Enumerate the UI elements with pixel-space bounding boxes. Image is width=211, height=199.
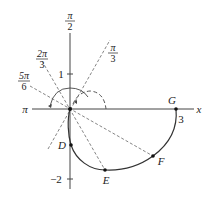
label-pi-over-2: π 2 <box>65 10 75 32</box>
svg-text:6: 6 <box>22 81 27 92</box>
ray-pi-over-3 <box>48 40 110 149</box>
origin-point <box>68 107 72 111</box>
svg-text:2: 2 <box>68 21 73 32</box>
point-label-g: G <box>168 94 176 106</box>
svg-text:5π: 5π <box>19 70 30 81</box>
label-pi-over-3: π 3 <box>108 42 118 64</box>
point-label-d: D <box>57 139 66 151</box>
svg-text:2π: 2π <box>37 48 48 59</box>
svg-text:π: π <box>110 42 116 53</box>
point-g <box>174 107 178 111</box>
label-5pi-over-6: 5π 6 <box>18 70 30 92</box>
svg-text:3: 3 <box>111 53 116 64</box>
angle-arc <box>50 88 88 106</box>
y-tick-label-neg2: −2 <box>50 173 62 185</box>
x-axis-label: x <box>196 103 202 115</box>
ray-2pi-over-3 <box>42 61 105 170</box>
svg-text:π: π <box>67 10 73 21</box>
point-e <box>103 168 107 172</box>
svg-text:3: 3 <box>40 59 45 70</box>
point-d <box>69 143 73 147</box>
ray-5pi-over-6 <box>30 86 153 156</box>
x-tick-label-3: 3 <box>178 113 184 125</box>
y-tick-label-1: 1 <box>58 68 64 80</box>
polar-diagram: π 2 π 3 2π 3 5π 6 π x 1 −2 3 D E F G <box>0 0 211 199</box>
point-f <box>151 154 155 158</box>
inner-loop-dashed <box>73 91 106 109</box>
pi-label: π <box>22 103 28 115</box>
label-2pi-over-3: 2π 3 <box>36 48 48 70</box>
point-label-e: E <box>102 174 110 186</box>
point-label-f: F <box>157 155 165 167</box>
